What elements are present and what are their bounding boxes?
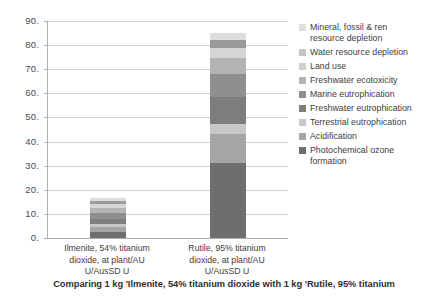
legend-item: Marine eutrophication	[299, 89, 448, 100]
legend-item: Acidification	[299, 131, 448, 142]
legend-item: Freshwater ecotoxicity	[299, 75, 448, 86]
bar-segment	[210, 74, 246, 97]
legend-swatch-icon	[299, 63, 306, 70]
y-axis-tick	[44, 69, 48, 70]
bar-segment	[210, 124, 246, 135]
legend-swatch-icon	[299, 49, 306, 56]
y-axis-tick	[44, 117, 48, 118]
stacked-bar-chart: 0.10.20.30.40.50.60.70.80.90. Ilmenite, …	[0, 0, 448, 297]
legend-item-label: Photochemical ozone formation	[310, 145, 394, 166]
y-axis-tick-label: 80.	[0, 39, 39, 50]
gridline	[48, 214, 288, 215]
legend-item-label: Terrestrial eutrophication	[310, 117, 406, 128]
bar-segment	[90, 232, 126, 238]
legend-item: Mineral, fossil & ren resource depletion	[299, 22, 448, 43]
y-axis-tick-label: 20.	[0, 184, 39, 195]
y-axis-tick	[44, 21, 48, 22]
legend-item-label: Acidification	[310, 131, 357, 142]
y-axis-tick	[44, 166, 48, 167]
gridline	[48, 117, 288, 118]
y-axis-tick	[44, 45, 48, 46]
legend-swatch-icon	[299, 77, 306, 84]
gridline	[48, 69, 288, 70]
gridline	[48, 190, 288, 191]
legend-swatch-icon	[299, 24, 306, 31]
y-axis-tick-label: 10.	[0, 208, 39, 219]
bar-segment	[210, 58, 246, 74]
y-axis-tick	[44, 190, 48, 191]
legend-item-label: Land use	[310, 61, 346, 72]
chart-legend: Mineral, fossil & ren resource depletion…	[299, 22, 448, 170]
y-axis-tick	[44, 214, 48, 215]
chart-caption: Comparing 1 kg 'Ilmenite, 54% titanium d…	[0, 279, 448, 289]
y-axis-tick-label: 50.	[0, 111, 39, 122]
bar-segment	[210, 33, 246, 40]
bar-segment	[210, 163, 246, 238]
y-axis-tick-label: 40.	[0, 136, 39, 147]
bar-segment	[210, 40, 246, 47]
y-axis-tick-label: 90.	[0, 15, 39, 26]
gridline	[48, 21, 288, 22]
legend-item: Water resource depletion	[299, 47, 448, 58]
legend-item-label: Freshwater ecotoxicity	[310, 75, 398, 86]
legend-item: Freshwater eutrophication	[299, 103, 448, 114]
bar	[210, 33, 246, 238]
y-axis-tick	[44, 93, 48, 94]
legend-item: Photochemical ozone formation	[299, 145, 448, 166]
legend-item-label: Marine eutrophication	[310, 89, 395, 100]
legend-swatch-icon	[299, 105, 306, 112]
y-axis-tick-label: 70.	[0, 63, 39, 74]
y-axis-tick	[44, 238, 48, 239]
bar-segment	[210, 97, 246, 124]
bar	[90, 198, 126, 238]
legend-item-label: Mineral, fossil & ren resource depletion	[310, 22, 387, 43]
y-axis-tick	[44, 142, 48, 143]
bar-segment	[210, 48, 246, 59]
plot-area	[47, 21, 288, 239]
legend-swatch-icon	[299, 91, 306, 98]
legend-item: Terrestrial eutrophication	[299, 117, 448, 128]
gridline	[48, 166, 288, 167]
x-axis-category-label: Rutile, 95% titanium dioxide, at plant/A…	[167, 243, 287, 278]
legend-item: Land use	[299, 61, 448, 72]
x-axis-category-label: Ilmenite, 54% titanium dioxide, at plant…	[47, 243, 167, 278]
y-axis-tick-label: 60.	[0, 87, 39, 98]
legend-item-label: Water resource depletion	[310, 47, 408, 58]
legend-swatch-icon	[299, 147, 306, 154]
legend-swatch-icon	[299, 133, 306, 140]
legend-swatch-icon	[299, 119, 306, 126]
y-axis-tick-label: 30.	[0, 160, 39, 171]
y-axis-tick-label: 0.	[0, 232, 39, 243]
gridline	[48, 142, 288, 143]
bar-segment	[210, 134, 246, 163]
gridline	[48, 93, 288, 94]
legend-item-label: Freshwater eutrophication	[310, 103, 412, 114]
gridline	[48, 45, 288, 46]
